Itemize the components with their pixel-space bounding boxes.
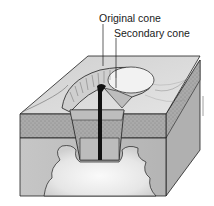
label-secondary-cone: Secondary cone (114, 28, 190, 39)
label-original-cone: Original cone (99, 13, 161, 24)
collapsed-block (70, 110, 124, 160)
caldera-diagram: Original cone Secondary cone (0, 0, 214, 206)
